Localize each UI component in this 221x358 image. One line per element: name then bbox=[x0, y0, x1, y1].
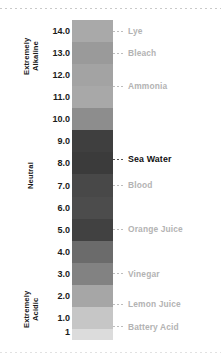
leader-line-icon bbox=[113, 273, 124, 274]
callout-battery-acid: Battery Acid bbox=[113, 322, 179, 332]
axis-tick-2-0: 2.0 bbox=[40, 291, 70, 300]
leader-line-icon bbox=[113, 31, 124, 32]
ph-band-14 bbox=[72, 20, 113, 42]
callout-label: Blood bbox=[128, 181, 152, 189]
leader-line-icon bbox=[113, 159, 124, 160]
callout-label: Lye bbox=[128, 27, 143, 35]
ph-band-7 bbox=[72, 174, 113, 196]
callout-ammonia: Ammonia bbox=[113, 81, 167, 91]
callout-label: Vinegar bbox=[128, 270, 160, 278]
leader-line-icon bbox=[113, 86, 124, 87]
ph-band-12 bbox=[72, 64, 113, 86]
ph-axis: 14.013.012.011.010.09.08.07.06.05.04.03.… bbox=[40, 20, 70, 340]
axis-tick-12-0: 12.0 bbox=[40, 71, 70, 80]
callout-label: Battery Acid bbox=[128, 323, 179, 331]
substance-callouts: LyeBleachAmmoniaSea WaterBloodOrange Jui… bbox=[113, 20, 221, 340]
ph-band-3 bbox=[72, 263, 113, 285]
leader-line-icon bbox=[113, 185, 124, 186]
callout-label: Sea Water bbox=[128, 155, 172, 164]
axis-tick-10-0: 10.0 bbox=[40, 115, 70, 124]
axis-tick-1: 1 bbox=[40, 328, 70, 337]
ph-band-5 bbox=[72, 219, 113, 241]
callout-lemon-juice: Lemon Juice bbox=[113, 300, 181, 310]
callout-label: Orange Juice bbox=[128, 225, 183, 233]
leader-line-icon bbox=[113, 53, 124, 54]
callout-lye: Lye bbox=[113, 26, 143, 36]
axis-tick-5-0: 5.0 bbox=[40, 225, 70, 234]
ph-band-10 bbox=[72, 108, 113, 130]
axis-tick-7-0: 7.0 bbox=[40, 181, 70, 190]
ph-band-11 bbox=[72, 86, 113, 108]
callout-label: Bleach bbox=[128, 49, 156, 57]
ph-band-0 bbox=[72, 329, 113, 340]
axis-tick-11-0: 11.0 bbox=[40, 93, 70, 102]
ph-scale-chart: Extremely Alkaline Neutral Extremely Aci… bbox=[0, 0, 221, 358]
axis-tick-13-0: 13.0 bbox=[40, 49, 70, 58]
axis-tick-6-0: 6.0 bbox=[40, 203, 70, 212]
axis-tick-8-0: 8.0 bbox=[40, 159, 70, 168]
callout-vinegar: Vinegar bbox=[113, 269, 160, 279]
callout-sea-water: Sea Water bbox=[113, 154, 172, 164]
ph-band-8 bbox=[72, 152, 113, 174]
callout-label: Lemon Juice bbox=[128, 300, 181, 308]
axis-tick-14-0: 14.0 bbox=[40, 27, 70, 36]
ph-color-bar bbox=[72, 20, 113, 340]
ph-band-1 bbox=[72, 307, 113, 329]
leader-line-icon bbox=[113, 326, 124, 327]
axis-tick-1-0: 1.0 bbox=[40, 313, 70, 322]
axis-tick-9-0: 9.0 bbox=[40, 137, 70, 146]
axis-tick-3-0: 3.0 bbox=[40, 269, 70, 278]
callout-blood: Blood bbox=[113, 181, 152, 191]
ph-band-2 bbox=[72, 285, 113, 307]
callout-bleach: Bleach bbox=[113, 48, 156, 58]
ph-band-13 bbox=[72, 42, 113, 64]
ph-band-4 bbox=[72, 241, 113, 263]
ph-band-9 bbox=[72, 130, 113, 152]
leader-line-icon bbox=[113, 304, 124, 305]
ph-band-6 bbox=[72, 197, 113, 219]
leader-line-icon bbox=[113, 229, 124, 230]
axis-tick-4-0: 4.0 bbox=[40, 247, 70, 256]
callout-label: Ammonia bbox=[128, 82, 167, 90]
callout-orange-juice: Orange Juice bbox=[113, 225, 183, 235]
